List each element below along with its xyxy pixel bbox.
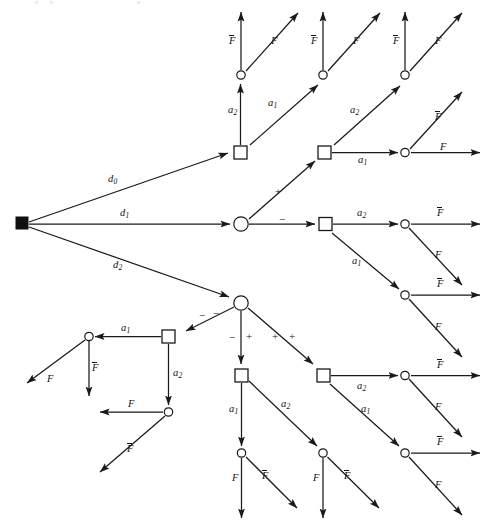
edge-label-F-midr1: F: [435, 250, 441, 261]
edge-label-d2: d2: [113, 260, 122, 272]
edge-mid-a1: [332, 233, 399, 289]
edge-label-F-b3: F: [435, 480, 441, 491]
node-chance-lr-1[interactable]: [401, 371, 409, 379]
edge-label-a2-lowermid: a2: [281, 399, 290, 411]
edge-label-Fbar-b1: F: [262, 471, 268, 482]
edge-label-a2-upper: a2: [228, 105, 237, 117]
edge-b2-Fbar: [328, 457, 380, 508]
edge-label-d0: d0: [108, 174, 117, 186]
node-decision-lower-left[interactable]: [162, 330, 175, 343]
node-chance-upper-r[interactable]: [401, 148, 409, 156]
node-chance-top-3[interactable]: [401, 71, 409, 79]
node-chance-top-1[interactable]: [237, 71, 245, 79]
edge-label-F-b2: F: [313, 473, 319, 484]
edge-label-Fbar-b2: F: [344, 471, 350, 482]
edge-label-Fbar-top2: F: [311, 36, 317, 47]
edge-lower-minusminus: [186, 307, 234, 331]
edge-label-Fbar-lowerleft: F: [92, 363, 98, 374]
node-decision-upper[interactable]: [234, 146, 247, 159]
edge-label-Fbar-upperright: F: [435, 112, 441, 123]
edge-label-a2-lowerright: a2: [357, 381, 366, 393]
edge-label-a1-upper: a1: [268, 98, 277, 110]
node-chance-lower-left-2[interactable]: [164, 408, 172, 416]
edge-sign-plus-lower-a: +: [246, 331, 252, 342]
edge-label-a2-upper2: a2: [350, 105, 359, 117]
node-chance-lower-left[interactable]: [85, 332, 93, 340]
edge-label-a2-lowerleft: a2: [173, 368, 182, 380]
edge-label-d1: d1: [120, 208, 129, 220]
node-chance-bottom-3[interactable]: [401, 449, 409, 457]
node-decision-lower-right[interactable]: [317, 369, 330, 382]
edge-label-F-lowerleft: F: [47, 374, 53, 385]
edge-label-Fbar-lowerleft2: F: [127, 444, 133, 455]
edge-label-F-midr2: F: [435, 322, 441, 333]
edge-label-F-lr1: F: [435, 402, 441, 413]
edge-label-Fbar-top3: F: [393, 36, 399, 47]
edge-lower-plusplus: [248, 308, 313, 364]
edge-mid-plus: [249, 161, 315, 219]
edge-sign-minus-mid: −: [279, 214, 285, 225]
edge-label-a1-mid: a1: [352, 256, 361, 268]
edge-sign-minus-lower-a: −: [199, 310, 205, 321]
node-chance-lower[interactable]: [234, 296, 248, 310]
edge-label-Fbar-midr2: F: [437, 279, 443, 290]
edge-label-a1-lowerleft: a1: [121, 323, 130, 335]
edge-b1-Fbar: [246, 457, 297, 508]
node-chance-bottom-2[interactable]: [319, 449, 327, 457]
node-chance-middle-r2[interactable]: [401, 291, 409, 299]
node-decision-lower-mid[interactable]: [235, 369, 248, 382]
diagram-canvas: d0 d1 d2 a2 a1 a2 a1 F F F F F F F F: [0, 0, 492, 531]
edge-label-a1-lowerright: a1: [361, 404, 370, 416]
edge-root-d2: [29, 227, 229, 297]
node-chance-middle-r1[interactable]: [401, 220, 409, 228]
node-chance-middle[interactable]: [234, 217, 248, 231]
edge-lm-a2: [249, 381, 317, 446]
edge-label-a1-lowermid: a1: [229, 404, 238, 416]
node-decision-middle[interactable]: [319, 218, 332, 231]
node-chance-top-2[interactable]: [319, 71, 327, 79]
edge-sign-minus-lower-b: −: [213, 308, 219, 319]
edge-upper2-a2: [334, 86, 400, 145]
edge-label-F-b1: F: [232, 473, 238, 484]
edge-label-a1-upper2: a1: [358, 155, 367, 167]
node-decision-upper-2[interactable]: [318, 146, 331, 159]
tree-graphics: [0, 0, 492, 531]
edge-label-Fbar-b3: F: [437, 437, 443, 448]
edge-upper-a1: [250, 85, 318, 145]
edge-lln-F: [27, 340, 85, 383]
edge-sign-plus-lower-c: +: [289, 331, 295, 342]
node-chance-bottom-1[interactable]: [237, 449, 245, 457]
edge-label-Fbar-midr1: F: [437, 208, 443, 219]
edge-label-F-top3: F: [435, 36, 441, 47]
root-node[interactable]: [16, 217, 28, 229]
edge-sign-minus-lower-c: −: [229, 332, 235, 343]
edge-label-F-lowerleft2: F: [128, 399, 134, 410]
edge-sign-plus-lower-b: +: [272, 331, 278, 342]
edge-label-F-upperright: F: [440, 142, 446, 153]
edge-sign-plus-mid: +: [275, 186, 281, 197]
edge-label-Fbar-lr1: F: [437, 360, 443, 371]
edge-label-F-top1: F: [271, 36, 277, 47]
edge-label-Fbar-top1: F: [229, 36, 235, 47]
edge-label-F-top2: F: [353, 36, 359, 47]
edge-label-a2-mid: a2: [357, 208, 366, 220]
